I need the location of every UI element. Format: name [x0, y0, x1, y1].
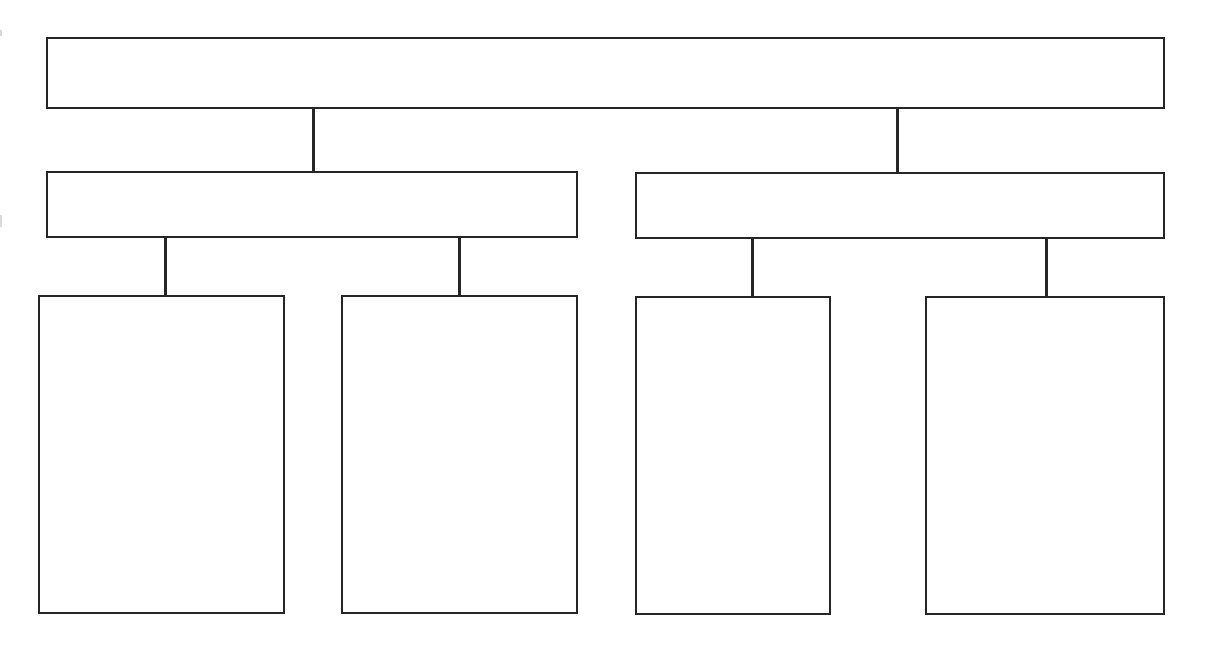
- leaf-4-node: [925, 296, 1165, 615]
- root-node: [46, 37, 1165, 109]
- scan-mark: [0, 215, 2, 227]
- connector-branch-left-to-leaf-2: [458, 237, 461, 297]
- connector-root-to-branch-right: [896, 108, 899, 173]
- connector-branch-right-to-leaf-4: [1045, 238, 1048, 298]
- leaf-3-node: [635, 296, 831, 615]
- connector-branch-right-to-leaf-3: [751, 238, 754, 298]
- leaf-1-node: [38, 295, 285, 614]
- branch-left-node: [46, 171, 578, 238]
- connector-root-to-branch-left: [312, 108, 315, 173]
- leaf-2-node: [341, 295, 578, 614]
- branch-right-node: [635, 172, 1165, 239]
- connector-branch-left-to-leaf-1: [164, 237, 167, 297]
- scan-mark: [0, 30, 2, 36]
